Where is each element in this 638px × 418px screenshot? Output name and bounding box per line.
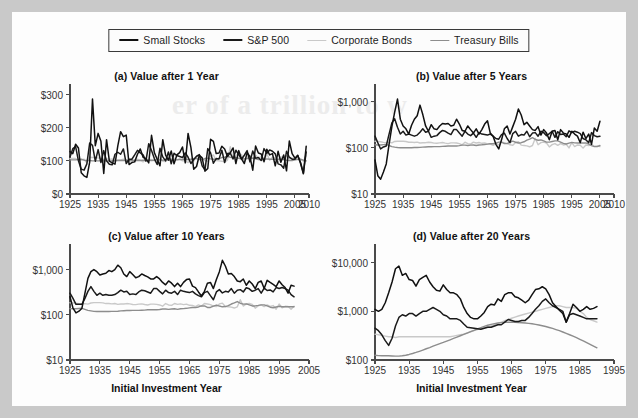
plot-area bbox=[14, 230, 319, 402]
panel-d: (d) Value after 20 Years$100$1,000$10,00… bbox=[319, 230, 624, 402]
series-line-small-stocks bbox=[375, 99, 600, 179]
legend-label: S&P 500 bbox=[247, 34, 289, 46]
chart-legend: Small StocksS&P 500Corporate BondsTreasu… bbox=[108, 29, 529, 52]
x-axis-title: Initial Investment Year bbox=[14, 382, 319, 394]
legend-items: Small StocksS&P 500Corporate BondsTreasu… bbox=[119, 34, 518, 46]
series-line-small-stocks bbox=[70, 99, 306, 178]
panel-b: (b) Value after 5 Years$10$100$1,0001925… bbox=[319, 70, 624, 220]
plot-area bbox=[319, 230, 624, 402]
series-line-s-p-500 bbox=[70, 287, 294, 305]
legend-item-corporate-bonds: Corporate Bonds bbox=[307, 34, 412, 46]
legend-label: Small Stocks bbox=[143, 34, 205, 46]
panel-a: (a) Value after 1 Year$0$100$200$3001925… bbox=[14, 70, 319, 220]
legend-item-s-p-500: S&P 500 bbox=[223, 34, 289, 46]
series-line-s-p-500 bbox=[375, 299, 597, 345]
plot-area bbox=[319, 70, 624, 220]
scanned-page: er of a trillion to w Small StocksS&P 50… bbox=[12, 12, 626, 406]
plot-area bbox=[14, 70, 319, 220]
legend-swatch-icon bbox=[307, 40, 326, 41]
legend-label: Treasury Bills bbox=[454, 34, 519, 46]
panel-c: (c) Value after 10 Years$10$100$1,000192… bbox=[14, 230, 319, 402]
legend-swatch-icon bbox=[430, 40, 449, 41]
legend-label: Corporate Bonds bbox=[331, 34, 412, 46]
x-axis-title: Initial Investment Year bbox=[319, 382, 624, 394]
series-line-corporate-bonds bbox=[375, 138, 600, 148]
legend-item-treasury-bills: Treasury Bills bbox=[430, 34, 519, 46]
legend-swatch-icon bbox=[223, 39, 242, 41]
legend-swatch-icon bbox=[119, 39, 138, 41]
legend-item-small-stocks: Small Stocks bbox=[119, 34, 205, 46]
